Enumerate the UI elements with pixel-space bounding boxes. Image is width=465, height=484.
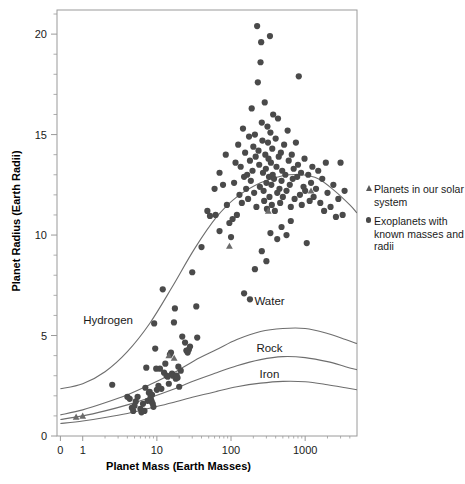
exoplanet-point	[182, 339, 188, 345]
exoplanet-point	[274, 236, 280, 242]
y-axis-title: Planet Radius (Earth Radii)	[10, 111, 22, 331]
exoplanet-point	[288, 204, 294, 210]
exoplanet-point	[286, 158, 292, 164]
exoplanet-point	[305, 172, 311, 178]
exoplanet-point	[275, 115, 281, 121]
exoplanet-point	[143, 365, 149, 371]
exoplanet-point	[160, 286, 166, 292]
exoplanet-point	[289, 152, 295, 158]
legend-item-solar-system: Planets in our solar system	[363, 183, 465, 208]
exoplanet-point	[293, 140, 299, 146]
y-tick-label-0: 0	[41, 430, 47, 442]
exoplanet-point	[333, 214, 339, 220]
exoplanet-point	[253, 154, 259, 160]
exoplanet-point	[319, 176, 325, 182]
exoplanet-point	[296, 73, 302, 79]
exoplanet-point	[258, 39, 264, 45]
y-tick-label-4: 20	[35, 28, 47, 40]
exoplanet-point	[257, 59, 263, 65]
exoplanet-point	[269, 202, 275, 208]
exoplanet-point	[265, 140, 271, 146]
exoplanet-point	[158, 386, 164, 392]
exoplanet-point	[309, 164, 315, 170]
exoplanet-point	[317, 200, 323, 206]
exoplanet-point	[220, 182, 226, 188]
exoplanet-point	[245, 196, 251, 202]
exoplanet-point	[299, 202, 305, 208]
exoplanet-point	[278, 224, 284, 230]
exoplanet-point	[207, 213, 213, 219]
exoplanet-point	[247, 296, 253, 302]
exoplanet-point	[259, 248, 265, 254]
exoplanet-point	[330, 182, 336, 188]
legend-item-exoplanets: Exoplanets with known masses and radii	[363, 215, 465, 253]
exoplanet-point	[273, 136, 279, 142]
exoplanet-point	[291, 196, 297, 202]
exoplanet-point	[174, 375, 180, 381]
exoplanet-point	[335, 196, 341, 202]
exoplanet-point	[311, 194, 317, 200]
exoplanet-point	[244, 172, 250, 178]
exoplanet-point	[276, 186, 282, 192]
exoplanet-point	[236, 192, 242, 198]
x-tick-label-2: 10	[151, 444, 163, 456]
exoplanet-point	[232, 160, 238, 166]
exoplanet-point	[189, 269, 195, 275]
exoplanet-point	[270, 111, 276, 117]
exoplanet-point	[273, 164, 279, 170]
exoplanet-point	[253, 204, 259, 210]
exoplanet-point	[263, 166, 269, 172]
x-axis-title: Planet Mass (Earth Masses)	[0, 460, 357, 472]
exoplanet-point	[283, 232, 289, 238]
exoplanet-point	[268, 182, 274, 188]
y-tick-label-1: 5	[41, 330, 47, 342]
exoplanet-point	[295, 162, 301, 168]
exoplanet-point	[269, 146, 275, 152]
exoplanet-point	[172, 305, 178, 311]
exoplanet-point	[256, 162, 262, 168]
exoplanet-point	[150, 404, 156, 410]
annotation-water: Water	[254, 295, 284, 307]
exoplanet-point	[198, 244, 204, 250]
exoplanet-point	[228, 234, 234, 240]
exoplanet-point	[213, 212, 219, 218]
exoplanet-point	[259, 119, 265, 125]
exoplanet-point	[247, 158, 253, 164]
exoplanet-point	[304, 240, 310, 246]
exoplanet-point	[171, 319, 177, 325]
exoplanet-point	[271, 176, 277, 182]
exoplanet-point	[127, 396, 133, 402]
exoplanet-point	[267, 129, 273, 135]
exoplanet-point	[216, 228, 222, 234]
exoplanet-point	[135, 394, 141, 400]
exoplanet-point	[278, 178, 284, 184]
plot-frame	[57, 10, 357, 436]
exoplanet-point	[166, 381, 172, 387]
exoplanet-point	[301, 156, 307, 162]
exoplanet-point	[252, 131, 258, 137]
exoplanet-point	[211, 186, 217, 192]
exoplanet-point	[287, 182, 293, 188]
exoplanet-point	[235, 142, 241, 148]
exoplanet-point	[242, 150, 248, 156]
chart-legend: Planets in our solar system Exoplanets w…	[363, 183, 465, 260]
exoplanet-point	[324, 190, 330, 196]
circle-icon	[363, 215, 374, 223]
exoplanet-point	[313, 186, 319, 192]
y-tick-label-3: 15	[35, 129, 47, 141]
exoplanet-point	[151, 320, 157, 326]
legend-label-exoplanets: Exoplanets with known masses and radii	[374, 215, 465, 253]
exoplanet-point	[175, 364, 181, 370]
x-tick-label-4: 1000	[293, 444, 317, 456]
exoplanet-point	[223, 152, 229, 158]
exoplanet-point	[252, 266, 258, 272]
annotation-hydrogen: Hydrogen	[83, 314, 133, 326]
exoplanet-point	[327, 204, 333, 210]
exoplanet-point	[341, 188, 347, 194]
exoplanet-point	[194, 334, 200, 340]
exoplanet-point	[176, 384, 182, 390]
exoplanet-point	[243, 186, 249, 192]
exoplanet-point	[162, 361, 168, 367]
exoplanet-point	[224, 202, 230, 208]
exoplanet-point	[216, 170, 222, 176]
